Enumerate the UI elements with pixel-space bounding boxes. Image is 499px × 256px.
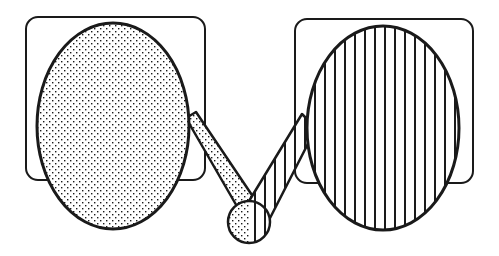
left-oval	[37, 23, 189, 229]
two-ovals-linked-drawing	[0, 0, 499, 256]
right-oval	[307, 26, 459, 230]
diagram-canvas	[0, 0, 499, 256]
joint-circle	[228, 201, 270, 243]
